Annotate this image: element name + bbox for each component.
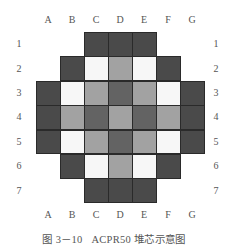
row-label-1: 1 <box>209 39 223 49</box>
column-label-A: A <box>41 15 55 25</box>
core-cell-C2 <box>84 56 109 81</box>
row-label-5: 5 <box>12 137 26 147</box>
core-cell-A3 <box>36 81 61 106</box>
row-label-3: 3 <box>209 88 223 98</box>
row-label-2: 2 <box>12 64 26 74</box>
row-label-1: 1 <box>12 39 26 49</box>
core-cell-B3 <box>60 81 85 106</box>
core-cell-F3 <box>156 81 181 106</box>
core-cell-B5 <box>60 130 85 155</box>
core-cell-D1 <box>108 32 133 57</box>
core-cell-E5 <box>132 130 157 155</box>
column-label-G: G <box>185 210 199 220</box>
core-cell-F2 <box>156 56 181 81</box>
core-cell-B6 <box>60 154 85 179</box>
core-cell-G5 <box>180 130 205 155</box>
column-label-B: B <box>65 210 79 220</box>
core-cell-E2 <box>132 56 157 81</box>
core-cell-A5 <box>36 130 61 155</box>
figure-caption: 图 3－10 ACPR50 堆芯示意图 <box>0 231 228 246</box>
core-cell-D2 <box>108 56 133 81</box>
core-cell-G3 <box>180 81 205 106</box>
row-label-4: 4 <box>12 112 26 122</box>
column-label-F: F <box>161 210 175 220</box>
core-cell-G4 <box>180 105 205 130</box>
row-label-6: 6 <box>12 161 26 171</box>
row-label-5: 5 <box>209 137 223 147</box>
core-cell-D3 <box>108 81 133 106</box>
core-cell-C6 <box>84 154 109 179</box>
column-label-D: D <box>113 210 127 220</box>
column-label-E: E <box>137 210 151 220</box>
core-cell-E6 <box>132 154 157 179</box>
column-label-D: D <box>113 15 127 25</box>
core-cell-E4 <box>132 105 157 130</box>
reactor-core-grid <box>36 32 204 203</box>
column-label-E: E <box>137 15 151 25</box>
core-cell-C4 <box>84 105 109 130</box>
core-cell-D5 <box>108 130 133 155</box>
column-label-A: A <box>41 210 55 220</box>
core-cell-E7 <box>132 178 157 203</box>
core-cell-A4 <box>36 105 61 130</box>
row-label-2: 2 <box>209 64 223 74</box>
column-label-B: B <box>65 15 79 25</box>
core-cell-F5 <box>156 130 181 155</box>
core-cell-C3 <box>84 81 109 106</box>
core-cell-B2 <box>60 56 85 81</box>
core-cell-D7 <box>108 178 133 203</box>
column-label-C: C <box>89 15 103 25</box>
core-cell-C5 <box>84 130 109 155</box>
row-label-7: 7 <box>12 186 26 196</box>
row-label-7: 7 <box>209 186 223 196</box>
core-cell-C1 <box>84 32 109 57</box>
column-label-C: C <box>89 210 103 220</box>
core-cell-D6 <box>108 154 133 179</box>
row-label-4: 4 <box>209 112 223 122</box>
core-cell-D4 <box>108 105 133 130</box>
core-cell-E1 <box>132 32 157 57</box>
core-cell-B4 <box>60 105 85 130</box>
core-cell-F4 <box>156 105 181 130</box>
column-label-F: F <box>161 15 175 25</box>
row-label-6: 6 <box>209 161 223 171</box>
row-label-3: 3 <box>12 88 26 98</box>
core-cell-E3 <box>132 81 157 106</box>
core-cell-F6 <box>156 154 181 179</box>
core-cell-C7 <box>84 178 109 203</box>
column-label-G: G <box>185 15 199 25</box>
